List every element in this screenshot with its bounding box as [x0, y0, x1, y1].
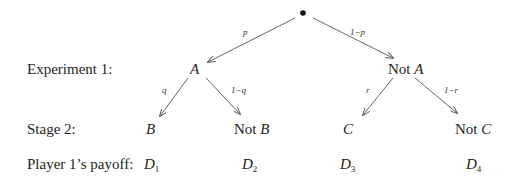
root-node [300, 10, 306, 16]
payoff-d2: D2 [242, 157, 257, 174]
node-not-a: Not A [388, 62, 423, 77]
edge-a-to-not-b [206, 78, 240, 114]
node-c: C [343, 122, 353, 137]
edge-not-a-to-c [363, 78, 393, 115]
edge-not-a-to-not-c [415, 78, 457, 113]
node-not-b: Not B [234, 122, 269, 137]
row-label-experiment: Experiment 1: [27, 62, 112, 77]
prob-1-minus-q: 1−q [231, 86, 246, 95]
node-b: B [146, 122, 155, 137]
edge-root-to-a [208, 18, 295, 62]
prob-p: p [243, 28, 248, 37]
node-a: A [190, 62, 199, 77]
payoff-d4: D4 [466, 157, 481, 174]
edge-root-to-not-a [313, 18, 393, 58]
row-label-stage: Stage 2: [27, 122, 76, 137]
edge-a-to-b [160, 78, 188, 116]
prob-1-minus-p: 1−p [350, 28, 365, 37]
prob-1-minus-r: 1−r [444, 86, 458, 95]
prob-q: q [162, 86, 167, 95]
payoff-d1: D1 [144, 157, 159, 174]
row-label-payoff: Player 1’s payoff: [27, 157, 133, 172]
payoff-d3: D3 [340, 157, 355, 174]
tree-edges [0, 0, 514, 182]
node-not-c: Not C [455, 122, 491, 137]
prob-r: r [366, 86, 370, 95]
